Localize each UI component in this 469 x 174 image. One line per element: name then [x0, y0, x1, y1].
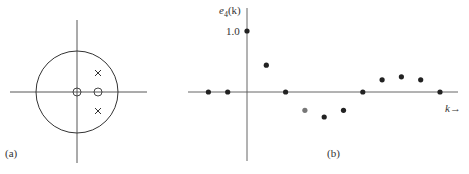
data-point: [322, 114, 327, 119]
data-point: [302, 108, 307, 113]
data-point: [283, 89, 288, 94]
data-point: [244, 28, 249, 33]
y-axis-label-arg: (k): [228, 4, 241, 16]
pole-marker-lower: [95, 108, 101, 114]
data-point: [206, 89, 211, 94]
data-point: [360, 89, 365, 94]
data-point: [437, 89, 442, 94]
data-point: [341, 108, 346, 113]
y-tick-label: 1.0: [226, 25, 240, 37]
x-axis-label: k→: [445, 102, 461, 114]
data-point: [399, 74, 404, 79]
data-point: [418, 77, 423, 82]
data-point: [264, 63, 269, 68]
panel-b-label: (b): [327, 147, 340, 159]
pole-marker-upper: [95, 70, 101, 76]
data-points: [206, 28, 443, 119]
data-point: [225, 89, 230, 94]
panel-a-label: (a): [5, 147, 17, 159]
y-axis-label: e4(k): [219, 4, 241, 19]
data-point: [380, 77, 385, 82]
pole-zero-plot: [10, 20, 147, 163]
